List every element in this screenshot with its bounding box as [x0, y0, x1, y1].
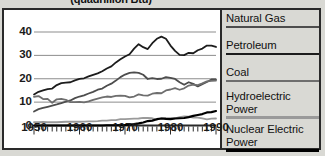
y-axis-tick-label: 10 — [6, 96, 32, 108]
x-axis-tick-label: 1960 — [67, 122, 93, 134]
legend-label: Natural Gas — [226, 12, 319, 25]
legend-label: Coal — [226, 66, 319, 79]
series-lines — [34, 37, 216, 126]
chart-legend: Natural GasPetroleumCoalHydroelectric Po… — [224, 10, 321, 148]
legend-label: Petroleum — [226, 39, 319, 52]
y-axis-tick-label: 20 — [6, 73, 32, 85]
gridlines — [34, 32, 216, 126]
legend-item-petroleum[interactable]: Petroleum — [226, 39, 319, 55]
legend-swatch-nuclear-electric-power — [226, 149, 319, 152]
legend-swatch-hydroelectric-power — [226, 116, 319, 119]
chart-title: (quadrillion Btu) — [0, 0, 222, 5]
legend-label: Hydroelectric Power — [226, 90, 319, 115]
legend-label: Nuclear Electric Power — [226, 123, 319, 148]
x-axis-tick-label: 1970 — [112, 122, 138, 134]
legend-item-nuclear-electric-power[interactable]: Nuclear Electric Power — [226, 123, 319, 152]
energy-consumption-chart-figure: (quadrillion Btu) 010203040 195019601970… — [0, 0, 325, 156]
y-axis-tick-label: 30 — [6, 49, 32, 61]
legend-item-natural-gas[interactable]: Natural Gas — [226, 12, 319, 28]
x-axis-tick-label: 1950 — [21, 122, 47, 134]
legend-swatch-coal — [226, 80, 319, 83]
legend-swatch-petroleum — [226, 53, 319, 56]
x-axis-tick-label: 1980 — [158, 122, 184, 134]
legend-swatch-natural-gas — [226, 26, 319, 29]
legend-item-hydroelectric-power[interactable]: Hydroelectric Power — [226, 90, 319, 119]
y-axis-tick-label: 40 — [6, 26, 32, 38]
legend-item-coal[interactable]: Coal — [226, 66, 319, 82]
